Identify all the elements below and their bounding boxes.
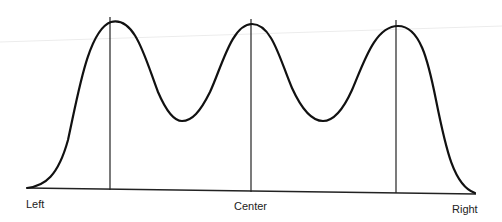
axis-label-left: Left	[26, 198, 44, 210]
diagram-canvas	[0, 0, 502, 222]
axis-label-right: Right	[452, 203, 478, 215]
trimodal-diagram: Left Center Right	[0, 0, 502, 222]
axis-label-center: Center	[234, 200, 267, 212]
